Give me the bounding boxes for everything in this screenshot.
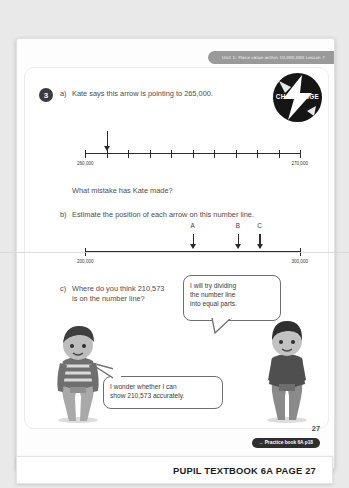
speech-boy-line2: show 210,573 accurately. — [110, 391, 216, 400]
question-part-a-followup: What mistake has Kate made? — [72, 186, 312, 196]
kate-arrow — [107, 131, 108, 150]
part-b-label: b) — [60, 210, 72, 220]
character-boy-illustration — [47, 323, 109, 423]
question-part-c: c)Where do you think 210,573 is on the n… — [60, 284, 195, 304]
tick — [214, 150, 215, 159]
part-c-line2: is on the number line? — [72, 294, 195, 304]
tick — [85, 150, 86, 159]
tick — [300, 150, 301, 159]
footer-band: PUPIL TEXTBOOK 6A PAGE 27 — [16, 456, 333, 484]
tick — [150, 150, 151, 159]
arrow-b — [238, 234, 239, 248]
tick — [107, 150, 108, 159]
speech-bubble-girl: I will try dividing the number line into… — [183, 275, 281, 321]
running-head-text: Unit 1: Place value within 10,000,000 Le… — [222, 55, 325, 60]
speech-girl-line3: into equal parts. — [190, 299, 274, 308]
number-line-b-start-label: 200,000 — [77, 259, 94, 264]
part-b-text: Estimate the position of each arrow on t… — [72, 210, 254, 219]
arrow-a — [193, 234, 194, 248]
tick — [193, 150, 194, 159]
footer-page-label: PAGE 27 — [276, 465, 316, 476]
question-part-a: a)Kate says this arrow is pointing to 26… — [60, 89, 300, 99]
running-head: Unit 1: Place value within 10,000,000 Le… — [208, 51, 334, 64]
number-line-a-end-label: 270,000 — [291, 161, 308, 166]
arrow-c-label: C — [257, 222, 262, 229]
speech-bubble-boy: I wonder whether I can show 210,573 accu… — [103, 376, 223, 409]
footer-text: PUPIL TEXTBOOK 6A PAGE 27 — [173, 465, 316, 476]
question-part-b: b)Estimate the position of each arrow on… — [60, 210, 310, 220]
part-a-text: Kate says this arrow is pointing to 265,… — [72, 89, 213, 98]
speech-girl-line2: the number line — [190, 290, 274, 299]
textbook-page: Unit 1: Place value within 10,000,000 Le… — [16, 38, 335, 470]
question-card: CHALLENGE 3 a)Kate says this arrow is po… — [24, 67, 329, 429]
arrow-b-label: B — [236, 222, 240, 229]
number-line-b-end-label: 300,000 — [291, 259, 308, 264]
speech-boy-line1: I wonder whether I can — [110, 382, 216, 391]
arrow-a-label: A — [191, 222, 195, 229]
part-c-line1: Where do you think 210,573 — [72, 284, 164, 293]
tick — [128, 150, 129, 159]
tick — [279, 150, 280, 159]
part-a-label: a) — [60, 89, 72, 99]
part-c-label: c) — [60, 284, 72, 294]
page-number: 27 — [312, 424, 320, 433]
tick — [171, 150, 172, 159]
tick — [236, 150, 237, 159]
tick — [257, 150, 258, 159]
character-girl-illustration — [257, 318, 317, 423]
speech-bubble-girl-tail — [211, 318, 235, 334]
question-number: 3 — [39, 88, 53, 102]
scan-line-artifact — [0, 252, 349, 253]
arrow-c — [259, 234, 260, 248]
number-line-a-start-label: 260,000 — [77, 161, 94, 166]
footer-book-title: PUPIL TEXTBOOK 6A — [173, 465, 273, 476]
practice-book-link[interactable]: → Practice book 6A p18 — [252, 438, 320, 448]
speech-girl-line1: I will try dividing — [190, 281, 274, 290]
